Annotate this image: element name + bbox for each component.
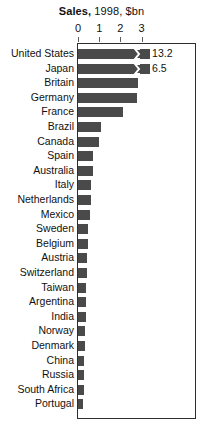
bar-row: Argentina [0, 295, 203, 309]
bar-row-label: Italy [55, 178, 74, 190]
bar-row: Norway [0, 324, 203, 338]
bar-row: Denmark [0, 339, 203, 353]
bar [78, 210, 90, 220]
bar [78, 78, 138, 88]
bar-row-label: Taiwan [41, 281, 74, 293]
bar [78, 312, 86, 322]
bar [78, 93, 137, 103]
bar-row-label: Netherlands [17, 193, 74, 205]
bar-row-label: South Africa [17, 383, 74, 395]
bar [78, 385, 84, 395]
bar [78, 239, 88, 249]
bar-row-label: Belgium [36, 237, 74, 249]
chart-title: Sales, 1998, $bn [0, 5, 203, 18]
bar-row: Sweden [0, 222, 203, 236]
bar-row: Russia [0, 368, 203, 382]
bar [78, 137, 99, 147]
bar-row-label: India [51, 310, 74, 322]
bar-row-label: Germany [31, 91, 74, 103]
axis-break-zigzag-icon [133, 64, 142, 74]
bar-row-label: Switzerland [20, 266, 74, 278]
bar [78, 399, 83, 409]
bar-row-label: China [47, 354, 74, 366]
bar [78, 297, 86, 307]
bar-row-label: Denmark [31, 339, 74, 351]
bar [78, 180, 91, 190]
bar-row: Spain [0, 149, 203, 163]
x-axis-tick-label-1: 1 [96, 22, 102, 35]
bar-row: India [0, 310, 203, 324]
bar-row: Taiwan [0, 281, 203, 295]
bar-row-label: Norway [38, 324, 74, 336]
bar-row: Belgium [0, 237, 203, 251]
axis-break-zigzag-icon [133, 49, 142, 59]
bar-row: United States13.2 [0, 47, 203, 61]
bar [78, 253, 87, 263]
bar [78, 122, 101, 132]
bar-row-label: Spain [47, 149, 74, 161]
bar [78, 341, 85, 351]
bar-row-label: Britain [44, 76, 74, 88]
chart-title-rest: 1998, $bn [94, 5, 144, 17]
bar-row-label: Japan [45, 62, 74, 74]
bar-row: Canada [0, 135, 203, 149]
bar-row-label: Russia [42, 368, 74, 380]
bar-row: Switzerland [0, 266, 203, 280]
x-axis-tick-mark-2 [120, 37, 121, 42]
x-axis-tick-labels: 0123 [0, 22, 203, 36]
bar [78, 195, 91, 205]
bar-row-label: Australia [33, 164, 74, 176]
bar-row-label: Portugal [35, 397, 74, 409]
bar [78, 224, 88, 234]
x-axis-tick-mark-0 [78, 37, 79, 42]
bar-rows: United States13.2Japan6.5BritainGermanyF… [0, 43, 203, 419]
bar-row: Netherlands [0, 193, 203, 207]
bar-row: Germany [0, 91, 203, 105]
bar-row-label: Sweden [36, 222, 74, 234]
bar-row: Japan6.5 [0, 62, 203, 76]
bar-row: Portugal [0, 397, 203, 411]
bar-row: China [0, 354, 203, 368]
bar-row-label: France [41, 105, 74, 117]
chart-title-bold: Sales, [59, 5, 91, 17]
bar-value-label: 6.5 [152, 62, 167, 74]
bar-row-label: Austria [41, 251, 74, 263]
bar [78, 356, 84, 366]
x-axis-tick-label-3: 3 [139, 22, 145, 35]
bar-row: Brazil [0, 120, 203, 134]
bar-row-label: Brazil [48, 120, 74, 132]
bar [78, 151, 93, 161]
bar-row-label: United States [11, 47, 74, 59]
bar [78, 370, 84, 380]
bar-row-label: Mexico [41, 208, 74, 220]
bar-row: France [0, 105, 203, 119]
bar-row: South Africa [0, 383, 203, 397]
bar-value-label: 13.2 [152, 47, 172, 59]
bar-row: Britain [0, 76, 203, 90]
bar [78, 107, 123, 117]
sales-bar-chart: Sales, 1998, $bn 0123 United States13.2J… [0, 0, 203, 424]
bar-row-label: Argentina [29, 295, 74, 307]
bar [78, 268, 87, 278]
x-axis-tick-label-0: 0 [75, 22, 81, 35]
x-axis-tick-mark-1 [99, 37, 100, 42]
bar-row: Australia [0, 164, 203, 178]
bar-row: Austria [0, 251, 203, 265]
bar [78, 326, 85, 336]
bar-row: Italy [0, 178, 203, 192]
bar [78, 166, 93, 176]
bar-row: Mexico [0, 208, 203, 222]
bar [78, 283, 86, 293]
x-axis-tick-mark-3 [142, 37, 143, 42]
bar-row-label: Canada [37, 135, 74, 147]
x-axis-tick-label-2: 2 [117, 22, 123, 35]
